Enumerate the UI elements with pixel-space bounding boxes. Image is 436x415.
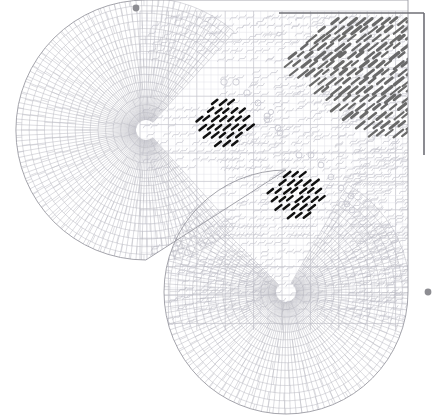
top-registration-dot[interactable] (133, 5, 140, 12)
pattern-chart-root: Crochet Stitch Pattern Chart Two overlap… (0, 0, 436, 415)
pattern-chart-canvas[interactable] (0, 0, 436, 415)
right-registration-dot[interactable] (425, 289, 432, 296)
